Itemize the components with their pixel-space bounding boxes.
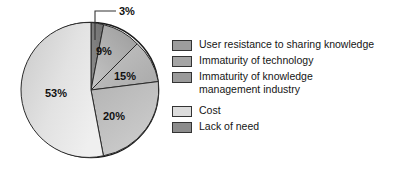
legend-label-immaturity-km-industry: Immaturity of knowledge management indus…: [199, 70, 313, 95]
pie-label-20: 20%: [103, 110, 125, 122]
pie-label-9: 9%: [96, 45, 112, 57]
legend-swatch-icon-user-resistance: [172, 40, 192, 51]
pie-chart-figure: 3% 9% 15% 20% 53% User resistance to sha…: [0, 0, 397, 170]
pie-label-15: 15%: [114, 70, 136, 82]
legend-label-immaturity-technology: Immaturity of technology: [199, 54, 313, 67]
legend-label-lack-of-need: Lack of need: [199, 120, 259, 133]
legend-item-immaturity-km-industry[interactable]: Immaturity of knowledge management indus…: [172, 70, 394, 95]
legend-swatch-icon-immaturity-km-industry: [172, 72, 192, 83]
legend-item-immaturity-technology[interactable]: Immaturity of technology: [172, 54, 394, 67]
chart-legend: User resistance to sharing knowledge Imm…: [172, 38, 394, 136]
pie-label-3: 3%: [119, 5, 135, 17]
legend-item-cost[interactable]: Cost: [172, 104, 394, 117]
legend-item-user-resistance[interactable]: User resistance to sharing knowledge: [172, 38, 394, 51]
legend-label-cost: Cost: [199, 104, 221, 117]
pie-label-53: 53%: [45, 87, 67, 99]
legend-swatch-icon-immaturity-technology: [172, 56, 192, 67]
legend-swatch-icon-cost: [172, 106, 192, 117]
legend-item-lack-of-need[interactable]: Lack of need: [172, 120, 394, 133]
legend-swatch-icon-lack-of-need: [172, 122, 192, 133]
legend-label-user-resistance: User resistance to sharing knowledge: [199, 38, 374, 51]
